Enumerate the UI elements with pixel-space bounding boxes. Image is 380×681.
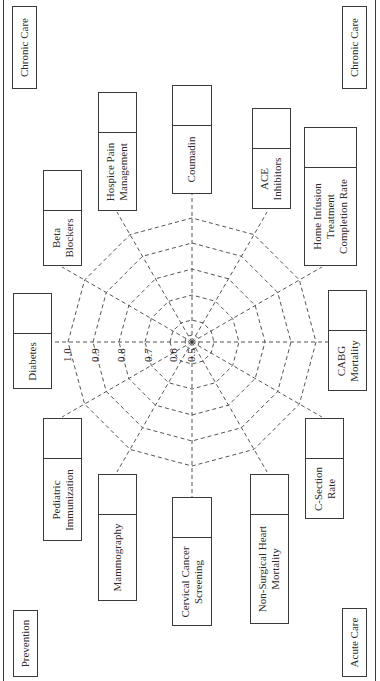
value-cell: [14, 294, 51, 334]
tick-1-0: 1.0: [61, 348, 73, 362]
value-cell: [306, 419, 343, 459]
value-cell: [329, 291, 366, 331]
tick-0-6: 0.6: [167, 348, 179, 362]
label: Inhibitors: [272, 157, 284, 200]
label: Screening: [192, 560, 204, 604]
label: Home Infusion: [311, 183, 323, 249]
value-cell: [44, 419, 81, 459]
value-cell: [99, 475, 136, 515]
label: Beta: [50, 228, 62, 248]
box-ace-inhibitors: ACEInhibitors: [252, 108, 291, 209]
label: CABG: [335, 345, 347, 376]
box-pediatric-immunization: PediatricImmunization: [43, 418, 82, 541]
tick-0-8: 0.8: [115, 348, 127, 362]
value-cell: [44, 171, 81, 211]
label: Treatment: [324, 194, 336, 239]
tick-0-9: 0.9: [89, 348, 101, 362]
label: Mortality: [270, 548, 282, 590]
label: Cervical Cancer: [179, 546, 191, 617]
box-cabg-mortality: CABGMortality: [328, 290, 367, 391]
value-cell: [251, 475, 288, 515]
corner-chronic-care-right: Chronic Care: [342, 6, 367, 89]
box-c-section-rate: C-SectionRate: [305, 418, 344, 519]
label: Immunization: [63, 469, 75, 531]
tick-0-7: 0.7: [142, 348, 154, 362]
label: Mammography: [111, 524, 123, 592]
value-cell: [99, 93, 136, 133]
box-beta-blockers: BetaBlockers: [43, 170, 82, 266]
box-non-surgical-heart-mortality: Non-Surgical HeartMortality: [250, 474, 289, 624]
box-hospice-pain-management: Hospice PainManagement: [98, 92, 137, 211]
label: Coumadin: [186, 137, 198, 183]
corner-acute-care: Acute Care: [342, 608, 367, 677]
corner-chronic-care-left: Chronic Care: [12, 6, 37, 89]
label: Blockers: [63, 218, 75, 257]
label: Hospice Pain: [105, 142, 117, 200]
value-cell: [305, 128, 356, 168]
box-coumadin: Coumadin: [172, 85, 212, 194]
label: Diabetes: [26, 342, 38, 380]
tick-0-5: 0.5: [185, 348, 197, 362]
box-cervical-cancer-screening: Cervical CancerScreening: [172, 497, 212, 626]
box-mammography: Mammography: [98, 474, 137, 601]
label: ACE: [259, 168, 271, 190]
label: Completion Rate: [337, 179, 349, 254]
value-cell: [253, 109, 290, 149]
value-cell: [173, 86, 211, 126]
corner-prevention: Prevention: [13, 610, 38, 677]
label: C-Section: [312, 467, 324, 511]
box-home-infusion: Home InfusionTreatmentCompletion Rate: [304, 127, 357, 266]
label: Non-Surgical Heart: [257, 526, 269, 612]
label: Rate: [325, 478, 337, 498]
value-cell: [173, 498, 211, 538]
label: Pediatric: [50, 480, 62, 519]
box-diabetes: Diabetes: [13, 293, 52, 389]
label: Management: [118, 143, 130, 200]
label: Mortality: [348, 340, 360, 382]
